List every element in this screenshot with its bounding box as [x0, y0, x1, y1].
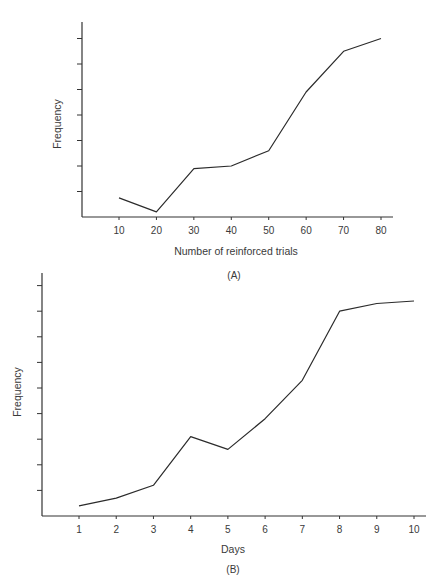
x-tick-label: 70 [338, 225, 350, 236]
x-tick-label: 10 [113, 225, 125, 236]
x-tick-label: 7 [300, 524, 306, 535]
x-tick-label: 1 [76, 524, 82, 535]
x-tick-label: 3 [151, 524, 157, 535]
chart-b: 12345678910 Frequency Days (B) [11, 273, 426, 575]
chart-a-x-ticks: 1020304050607080 [113, 217, 387, 236]
chart-a-caption: (A) [227, 270, 240, 281]
x-tick-label: 30 [188, 225, 200, 236]
chart-a-y-ticks [77, 39, 82, 192]
x-tick-label: 50 [263, 225, 275, 236]
chart-b-data-line [79, 301, 414, 506]
chart-a-xlabel: Number of reinforced trials [174, 245, 298, 257]
chart-b-ylabel: Frequency [11, 366, 23, 416]
x-tick-label: 10 [408, 524, 420, 535]
chart-a: 1020304050607080 Frequency Number of rei… [51, 22, 393, 281]
x-tick-label: 60 [301, 225, 313, 236]
x-tick-label: 80 [375, 225, 387, 236]
x-tick-label: 9 [374, 524, 380, 535]
x-tick-label: 2 [113, 524, 119, 535]
chart-a-ylabel: Frequency [51, 98, 63, 148]
chart-b-y-ticks [37, 286, 42, 491]
x-tick-label: 40 [226, 225, 238, 236]
x-tick-label: 20 [151, 225, 163, 236]
figure: 1020304050607080 Frequency Number of rei… [0, 0, 442, 588]
chart-b-caption: (B) [226, 564, 239, 575]
chart-b-xlabel: Days [221, 543, 245, 555]
chart-b-x-ticks: 12345678910 [76, 516, 420, 535]
x-tick-label: 5 [225, 524, 231, 535]
x-tick-label: 8 [337, 524, 343, 535]
x-tick-label: 4 [188, 524, 194, 535]
x-tick-label: 6 [262, 524, 268, 535]
chart-a-data-line [119, 39, 381, 212]
